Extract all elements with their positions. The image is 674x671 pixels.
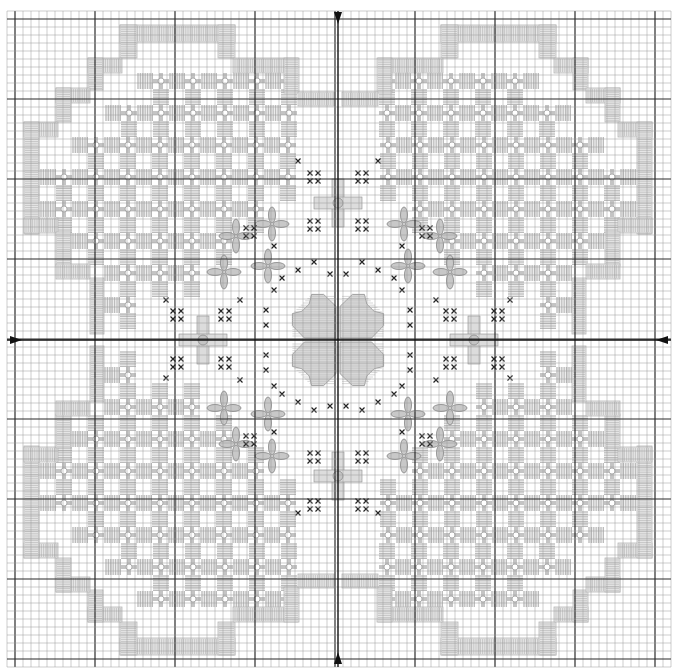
doves-eye <box>545 436 551 442</box>
lazy-daisy-petal <box>225 269 241 276</box>
doves-eye <box>513 500 519 506</box>
cross-stitch <box>392 276 397 281</box>
cross-stitch <box>244 226 249 231</box>
cross-stitch <box>420 434 425 439</box>
petal-flower <box>387 207 421 241</box>
cross-stitch <box>500 365 505 370</box>
lazy-daisy-petal <box>269 457 276 473</box>
lazy-daisy-petal <box>273 453 289 460</box>
lazy-daisy-petal <box>405 397 412 413</box>
doves-eye <box>125 404 131 410</box>
doves-eye <box>285 500 291 506</box>
satin-band <box>120 25 137 58</box>
doves-eye <box>221 532 227 538</box>
doves-eye <box>609 500 615 506</box>
cross-stitch <box>280 276 285 281</box>
cross-stitch <box>272 384 277 389</box>
petal-flower <box>387 439 421 473</box>
doves-eye <box>385 532 391 538</box>
petal-flower <box>433 391 467 425</box>
doves-eye <box>481 468 487 474</box>
satin-band <box>56 264 90 279</box>
lazy-daisy-petal <box>447 409 454 425</box>
doves-eye <box>417 500 423 506</box>
doves-eye <box>93 436 99 442</box>
lazy-daisy-petal <box>233 237 240 253</box>
doves-eye <box>189 436 195 442</box>
lazy-daisy-petal <box>409 263 425 270</box>
doves-eye <box>449 532 455 538</box>
lazy-daisy-petal <box>221 255 228 271</box>
doves-eye <box>577 468 583 474</box>
lazy-daisy-petal <box>441 233 457 240</box>
doves-eye <box>417 532 423 538</box>
doves-eye <box>125 372 131 378</box>
cross-stitch <box>264 368 269 373</box>
satin-band <box>24 218 58 233</box>
lazy-daisy-petal <box>221 409 228 425</box>
cross-stitch <box>428 226 433 231</box>
cross-stitch <box>164 376 169 381</box>
doves-eye <box>577 436 583 442</box>
doves-eye <box>545 500 551 506</box>
lazy-daisy-petal <box>269 263 285 270</box>
doves-eye <box>157 436 163 442</box>
lazy-daisy-petal <box>221 391 228 407</box>
lazy-daisy-petal <box>265 397 272 413</box>
doves-eye <box>93 532 99 538</box>
cross-stitch <box>164 298 169 303</box>
doves-eye <box>448 564 454 570</box>
cross-stitch <box>408 308 413 313</box>
lazy-daisy-petal <box>433 405 449 412</box>
lazy-daisy-petal <box>405 249 412 265</box>
doves-eye <box>384 564 390 570</box>
petal-flower <box>255 439 289 473</box>
lazy-daisy-petal <box>265 415 272 431</box>
cross-stitch <box>400 244 405 249</box>
petal-flower <box>391 397 425 431</box>
cross-stitch <box>400 430 405 435</box>
lazy-daisy-petal <box>225 405 241 412</box>
doves-eye <box>512 564 518 570</box>
satin-band <box>539 25 556 58</box>
cross-stitch <box>492 317 497 322</box>
cross-stitch <box>376 400 381 405</box>
doves-eye <box>221 500 227 506</box>
cross-stitch <box>492 357 497 362</box>
doves-eye <box>544 564 550 570</box>
petal-flower <box>207 255 241 289</box>
cross-stitch <box>272 430 277 435</box>
center-arrow-left-icon <box>10 336 22 344</box>
cross-stitch <box>452 317 457 322</box>
satin-band <box>56 88 71 122</box>
cross-stitch <box>428 434 433 439</box>
lazy-daisy-petal <box>237 441 253 448</box>
doves-eye <box>93 500 99 506</box>
lazy-daisy-petal <box>437 445 444 461</box>
lazy-daisy-petal <box>441 441 457 448</box>
doves-eye <box>416 596 422 602</box>
lazy-daisy-petal <box>269 439 276 455</box>
lazy-daisy-petal <box>269 411 285 418</box>
cross-stitch <box>296 400 301 405</box>
cross-stitch <box>500 357 505 362</box>
cross-stitch <box>444 357 449 362</box>
satin-band <box>441 25 458 58</box>
doves-eye <box>125 532 131 538</box>
lazy-daisy-petal <box>401 439 408 455</box>
cross-stitch <box>272 288 277 293</box>
doves-eye <box>481 404 487 410</box>
lazy-daisy-petal <box>405 453 421 460</box>
satin-band <box>24 447 58 462</box>
petal-flower <box>207 391 241 425</box>
doves-eye <box>577 500 583 506</box>
lazy-daisy-petal <box>447 273 454 289</box>
doves-eye <box>513 532 519 538</box>
petal-flower <box>251 397 285 431</box>
center-arrow-right-icon <box>656 336 668 344</box>
doves-eye <box>545 468 551 474</box>
doves-eye <box>221 468 227 474</box>
doves-eye <box>481 500 487 506</box>
cross-stitch <box>508 376 513 381</box>
doves-eye <box>189 532 195 538</box>
